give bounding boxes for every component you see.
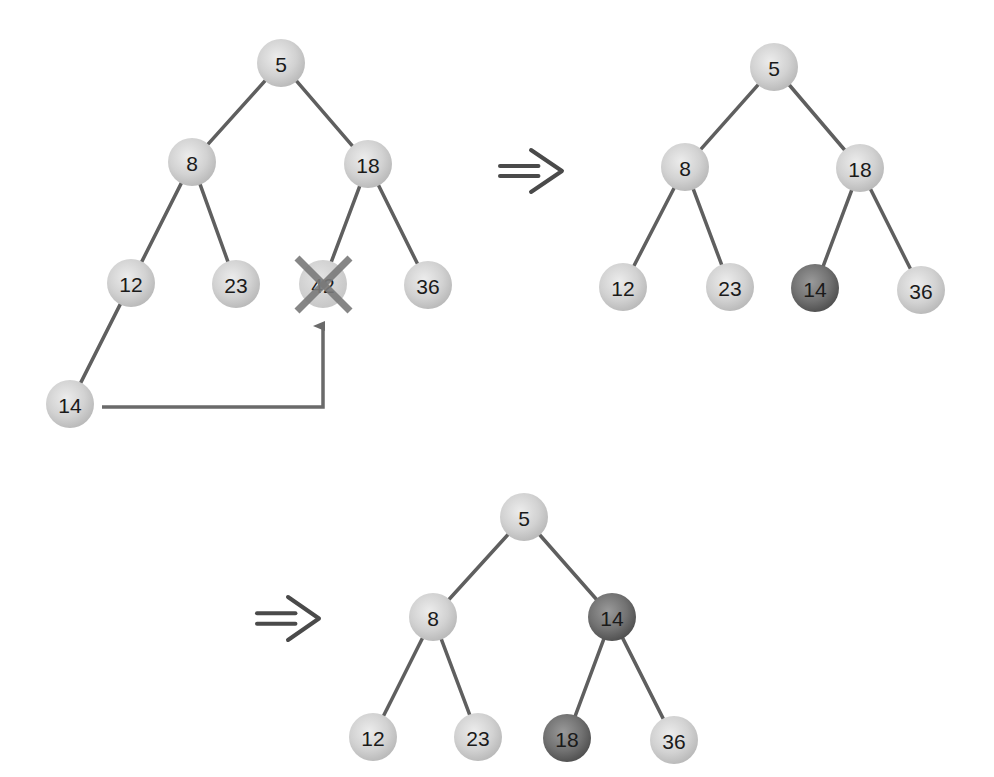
node-label: 36 <box>416 275 439 298</box>
node-8: 8 <box>661 143 709 191</box>
node-8: 8 <box>409 593 457 641</box>
node-label: 5 <box>768 57 780 80</box>
node-23: 23 <box>454 713 502 761</box>
node-5: 5 <box>500 493 548 541</box>
node-label: 5 <box>518 507 530 530</box>
node-12: 12 <box>349 713 397 761</box>
node-8: 8 <box>168 138 216 186</box>
node-label: 12 <box>361 727 384 750</box>
edge-8-12 <box>141 182 182 264</box>
node-label: 18 <box>848 158 871 181</box>
node-5: 5 <box>257 39 305 87</box>
node-label: 18 <box>555 728 578 751</box>
edge-5-8 <box>700 83 760 150</box>
node-label: 23 <box>718 277 741 300</box>
edge-18-14 <box>823 189 853 268</box>
node-14: 14 <box>46 380 94 428</box>
implies-arrow-icon <box>500 150 562 192</box>
node-label: 12 <box>611 277 634 300</box>
move-arrow-icon <box>102 326 323 407</box>
node-36: 36 <box>650 716 698 764</box>
node-label: 23 <box>466 727 489 750</box>
edge-8-12 <box>633 187 675 268</box>
node-18: 18 <box>836 144 884 192</box>
node-14-highlighted: 14 <box>791 264 839 312</box>
edge-8-23 <box>441 638 471 717</box>
node-23: 23 <box>706 263 754 311</box>
nodes-layer: 58181223423614581812231436581412231836 <box>46 39 945 764</box>
extras-layer <box>102 150 562 640</box>
node-label: 18 <box>356 154 379 177</box>
node-label: 8 <box>427 607 439 630</box>
node-18-highlighted: 18 <box>543 714 591 762</box>
node-label: 8 <box>186 152 198 175</box>
tree-step-3: 581412231836 <box>349 493 698 764</box>
edge-5-8 <box>207 79 267 145</box>
edge-5-14 <box>539 534 598 601</box>
node-label: 14 <box>600 607 624 630</box>
node-label: 14 <box>58 394 82 417</box>
edge-18-36 <box>870 188 911 271</box>
heap-deletion-diagram: 58181223423614581812231436581412231836 <box>0 0 994 777</box>
edge-14-36 <box>622 637 664 721</box>
edge-14-18 <box>575 638 605 718</box>
node-label: 8 <box>679 157 691 180</box>
edge-8-23 <box>199 183 228 264</box>
node-12: 12 <box>599 263 647 311</box>
node-label: 23 <box>224 274 247 297</box>
node-14-highlighted: 14 <box>588 593 636 641</box>
node-36: 36 <box>897 266 945 314</box>
edge-5-8 <box>448 533 509 600</box>
implies-arrow-icon <box>257 597 319 640</box>
node-label: 5 <box>275 53 287 76</box>
tree-step-2: 581812231436 <box>599 43 945 314</box>
node-5: 5 <box>750 43 798 91</box>
node-12: 12 <box>107 259 155 307</box>
edge-5-18 <box>788 84 845 151</box>
node-18: 18 <box>344 140 392 188</box>
node-label: 36 <box>662 730 685 753</box>
node-23: 23 <box>212 260 260 308</box>
edge-8-23 <box>693 188 723 267</box>
edge-18-42 <box>331 185 361 264</box>
node-36: 36 <box>404 261 452 309</box>
node-label: 36 <box>909 280 932 303</box>
edge-5-18 <box>295 80 353 148</box>
edge-12-14 <box>80 303 121 385</box>
node-label: 12 <box>119 273 142 296</box>
node-label: 14 <box>803 278 827 301</box>
edge-18-36 <box>378 184 418 266</box>
edge-8-12 <box>383 637 423 718</box>
